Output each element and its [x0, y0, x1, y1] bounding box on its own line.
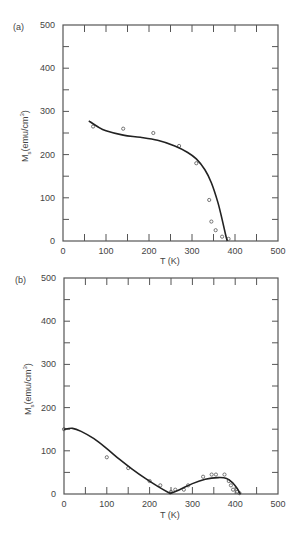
plot-frame — [64, 278, 278, 494]
data-point — [187, 484, 190, 487]
data-point — [127, 466, 130, 469]
x-tick-label: 500 — [270, 246, 285, 256]
data-point — [223, 473, 226, 476]
y-tick-label: 200 — [41, 403, 56, 413]
data-point — [214, 473, 217, 476]
y-axis-label-b: Ms(emu/cm3) — [22, 363, 35, 415]
data-point — [236, 490, 239, 493]
x-tick-label: 0 — [60, 246, 65, 256]
y-tick-label: 0 — [50, 236, 55, 246]
data-point — [221, 235, 224, 238]
x-tick-label: 500 — [270, 499, 285, 509]
data-point — [105, 456, 108, 459]
data-point — [182, 488, 185, 491]
y-tick-label: 100 — [41, 446, 56, 456]
panel-label-a: (a) — [13, 22, 24, 32]
y-tick-label: 500 — [40, 20, 55, 30]
x-tick-label: 400 — [228, 499, 243, 509]
data-point — [152, 131, 155, 134]
data-point — [174, 488, 177, 491]
y-tick-label: 300 — [41, 359, 56, 369]
y-tick-label: 0 — [51, 489, 56, 499]
x-tick-label: 400 — [227, 246, 242, 256]
data-point — [231, 488, 234, 491]
x-axis-label-b: T (K) — [160, 510, 180, 520]
x-axis-label-a: T (K) — [160, 256, 180, 266]
data-point — [210, 220, 213, 223]
data-point — [62, 428, 65, 431]
x-tick-label: 300 — [185, 499, 200, 509]
data-point — [202, 475, 205, 478]
y-tick-label: 200 — [40, 150, 55, 160]
x-tick-label: 100 — [99, 499, 114, 509]
y-tick-label: 300 — [40, 106, 55, 116]
data-point — [229, 484, 232, 487]
y-axis-label-a: Ms(emu/cm3) — [19, 110, 32, 162]
data-point — [169, 490, 172, 493]
data-point — [148, 479, 151, 482]
x-tick-label: 200 — [142, 499, 157, 509]
data-point — [122, 127, 125, 130]
x-tick-label: 200 — [141, 246, 156, 256]
x-tick-label: 0 — [61, 499, 66, 509]
panel-label-b: (b) — [15, 275, 26, 285]
y-tick-label: 100 — [40, 193, 55, 203]
data-point — [208, 198, 211, 201]
y-tick-label: 400 — [41, 316, 56, 326]
x-tick-label: 300 — [184, 246, 199, 256]
fit-curve — [64, 428, 240, 494]
data-point — [195, 162, 198, 165]
data-point — [214, 229, 217, 232]
fit-curve — [89, 121, 227, 241]
y-tick-label: 400 — [40, 63, 55, 73]
chart-a: (a) 01002003004005000100200300400500 Ms(… — [0, 0, 300, 270]
data-point — [210, 473, 213, 476]
plot-area-a: 01002003004005000100200300400500 — [0, 0, 300, 270]
data-point — [159, 484, 162, 487]
data-point — [227, 479, 230, 482]
x-tick-label: 100 — [98, 246, 113, 256]
plot-frame — [63, 25, 278, 241]
y-tick-label: 500 — [41, 273, 56, 283]
data-point — [238, 492, 241, 495]
